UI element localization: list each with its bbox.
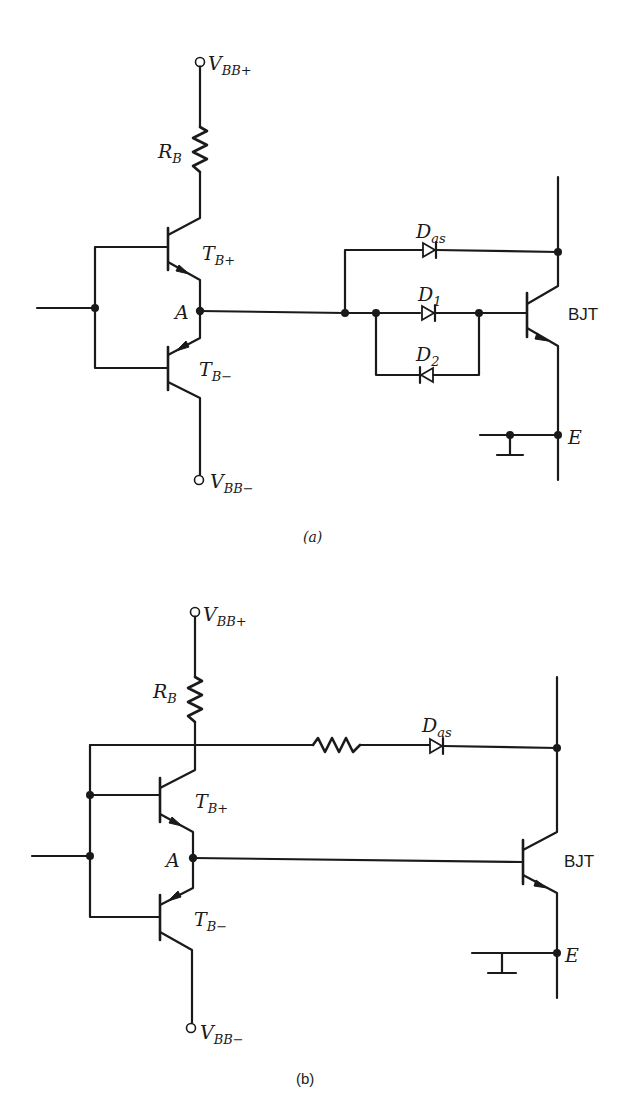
series-resistor-b <box>313 738 360 752</box>
label-tbm-a: TB− <box>199 360 232 383</box>
label-tbp-a: TB+ <box>202 244 235 267</box>
label-vbb-minus-b: VBB− <box>200 1023 244 1046</box>
input-junction-a <box>91 304 99 312</box>
label-vbb-plus-a: VBB+ <box>208 54 252 77</box>
das-wire-right-a <box>436 250 558 252</box>
label-rb-a: RB <box>158 142 182 165</box>
diode-das-b <box>430 739 442 753</box>
d2-loop-left <box>376 313 420 375</box>
label-emitter-a: E <box>568 428 582 447</box>
tbp-collector-b <box>160 722 195 788</box>
label-d1: D1 <box>418 285 442 308</box>
label-d2: D2 <box>416 345 440 368</box>
vbb-minus-terminal-b <box>187 1024 196 1033</box>
label-das-b: Das <box>422 716 452 739</box>
label-vbb-minus-a: VBB− <box>210 472 254 495</box>
bjt-emitter-arrow-a <box>535 333 548 341</box>
label-emitter-b: E <box>565 946 579 965</box>
label-bjt-b: BJT <box>564 853 594 870</box>
tbm-collector-b <box>160 932 192 1024</box>
label-vbb-plus-b: VBB+ <box>203 605 247 628</box>
diode-d2 <box>421 368 433 382</box>
panel-b-schematic <box>32 608 561 1033</box>
bjt-emitter-a <box>527 328 558 480</box>
base-loop-a <box>95 247 168 368</box>
das-wire-left-a <box>345 250 422 313</box>
tbm-emitter-arrow-a <box>176 341 189 351</box>
label-das-a: Das <box>416 222 446 245</box>
panel-a-schematic <box>37 58 562 485</box>
wire-a-to-base-b <box>193 858 523 862</box>
vbb-minus-terminal-a <box>195 476 204 485</box>
ground-symbol-b <box>488 953 516 973</box>
tbp-emitter-arrow-b <box>169 817 182 826</box>
resistor-rb-b <box>188 677 202 722</box>
bjt-collector-a <box>527 177 558 304</box>
caption-a: (a) <box>303 530 322 544</box>
resistor-rb-a <box>193 127 207 172</box>
tbm-emitter-arrow-b <box>168 891 181 901</box>
top-wire-right-b <box>443 746 557 748</box>
label-rb-b: RB <box>153 682 177 705</box>
tbp-collector-a <box>168 172 200 235</box>
label-node-a: A <box>175 303 189 322</box>
wire-a-to-d1 <box>200 311 420 313</box>
label-tbp-b: TB+ <box>195 792 228 815</box>
vbb-plus-terminal-b <box>191 608 200 617</box>
circuit-figure: VBB+ RB TB+ A TB− VBB− Das D1 D2 BJT E (… <box>0 0 627 1102</box>
circuit-schematics <box>0 0 627 1102</box>
bjt-collector-b <box>523 677 557 850</box>
base-loop-b <box>90 745 160 917</box>
label-tbm-b: TB− <box>194 910 227 933</box>
input-junction-b <box>86 852 94 860</box>
tbm-collector-a <box>168 382 200 476</box>
label-node-a-b: A <box>166 851 180 870</box>
vbb-plus-terminal-a <box>196 58 205 67</box>
label-bjt-a: BJT <box>568 306 598 323</box>
ground-symbol-a <box>497 435 523 455</box>
tbp-emitter-arrow-a <box>176 265 189 274</box>
bjt-emitter-arrow-b <box>534 880 547 888</box>
bjt-emitter-b <box>523 875 557 998</box>
caption-b: (b) <box>296 1071 314 1086</box>
